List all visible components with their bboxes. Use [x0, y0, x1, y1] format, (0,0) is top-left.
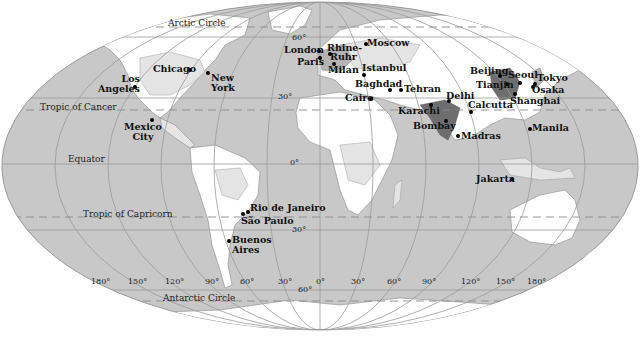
city-label-mexico-city: Mexico City — [124, 122, 162, 142]
city-label-jakarta: Jakarta — [476, 174, 515, 184]
latitude-30s-label: 30° — [292, 225, 306, 235]
city-label-los-angeles: Los Angeles — [98, 74, 140, 94]
landmass-antarctica — [0, 298, 642, 343]
city-label-london: London — [284, 45, 324, 55]
longitude-label: 30° — [351, 277, 365, 287]
city-label-sao-paulo: São Paulo — [241, 216, 294, 226]
longitude-label: 60° — [240, 277, 254, 287]
city-label-baghdad: Baghdad — [355, 79, 402, 89]
equator-label: Equator — [68, 154, 105, 164]
city-label-manila: Manila — [532, 123, 569, 133]
latitude-0-label: 0° — [290, 158, 299, 168]
longitude-label: 180° — [91, 277, 110, 287]
antarctic-circle-label: Antarctic Circle — [163, 293, 235, 303]
longitude-label: 180° — [527, 277, 546, 287]
city-label-shanghai: Shanghai — [510, 96, 560, 106]
latitude-30n-label: 30° — [278, 92, 292, 102]
city-label-bombay: Bombay — [413, 121, 456, 131]
city-label-milan: Milan — [328, 65, 359, 75]
city-marker-madras — [456, 134, 460, 138]
latitude-60s-label: 60° — [298, 285, 312, 295]
city-label-rhine-ruhr: Rhine- Ruhr — [327, 43, 362, 61]
city-marker-new-york — [206, 71, 210, 75]
city-label-rio-de-janeiro: Rio de Janeiro — [250, 203, 326, 213]
city-label-cairo: Cairo — [345, 93, 374, 103]
city-label-karachi: Karachi — [398, 106, 440, 116]
longitude-label: 150° — [496, 277, 515, 287]
city-label-istanbul: Istanbul — [362, 63, 406, 73]
tropic-of-cancer-label: Tropic of Cancer — [40, 102, 117, 112]
longitude-label: 60° — [387, 277, 401, 287]
city-label-osaka: Osaka — [532, 85, 565, 95]
city-label-madras: Madras — [461, 131, 501, 141]
longitude-label: 150° — [128, 277, 147, 287]
latitude-60n-label: 60° — [292, 33, 306, 43]
city-marker-calcutta — [469, 110, 473, 114]
city-label-tehran: Tehran — [404, 84, 441, 94]
city-label-tianjin: Tianjin — [476, 80, 514, 90]
longitude-label: 90° — [205, 277, 219, 287]
tropic-of-capricorn-label: Tropic of Capricorn — [83, 209, 173, 219]
city-label-line: City — [124, 132, 162, 142]
city-label-line: Ruhr — [327, 52, 362, 61]
city-label-line: Angeles — [98, 84, 140, 94]
longitude-label: 30° — [278, 277, 292, 287]
city-label-line: York — [211, 83, 235, 93]
longitude-label: 120° — [461, 277, 480, 287]
arctic-circle-label: Arctic Circle — [168, 18, 226, 28]
city-label-tokyo: Tokyo — [537, 73, 568, 83]
city-label-paris: Paris — [297, 57, 324, 67]
city-label-line: Aires — [232, 245, 272, 255]
city-label-chicago: Chicago — [153, 64, 196, 74]
city-marker-istanbul — [362, 73, 366, 77]
city-marker-buenos-aires — [227, 239, 231, 243]
city-label-buenos-aires: Buenos Aires — [232, 235, 272, 255]
longitude-label: 90° — [422, 277, 436, 287]
longitude-label: 0° — [316, 277, 325, 287]
city-label-calcutta: Calcutta — [468, 100, 513, 110]
city-label-beijing: Beijing — [470, 66, 508, 76]
city-label-new-york: New York — [211, 73, 235, 93]
city-label-seoul: Seoul — [508, 70, 538, 80]
city-marker-seoul — [518, 81, 522, 85]
longitude-label: 120° — [165, 277, 184, 287]
city-label-moscow: Moscow — [367, 38, 410, 48]
